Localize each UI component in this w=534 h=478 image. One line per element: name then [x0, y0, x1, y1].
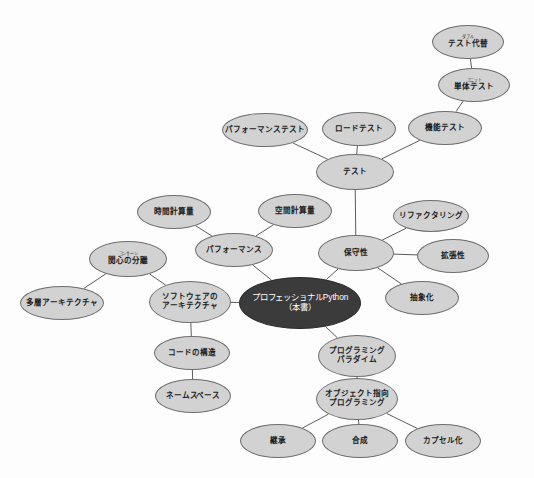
edge-soc-layered	[84, 274, 106, 289]
node-paradigm[interactable]: プログラミングパラダイム	[318, 335, 396, 377]
node-root-label-line2: （本書）	[284, 303, 316, 313]
node-perf_test[interactable]: パフォーマンステスト	[222, 113, 308, 147]
node-unit_test-label: 単体テスト	[454, 83, 494, 92]
mind-map-canvas: プロフェッショナルPython（本書）テストパフォーマンステストロードテスト機能…	[0, 0, 534, 478]
node-perf_test-label: パフォーマンステスト	[225, 126, 304, 135]
node-load_test-label: ロードテスト	[335, 125, 382, 134]
node-space_cx-label: 空間計算量	[275, 207, 315, 216]
edge-time_cx-performance	[196, 226, 212, 236]
node-soc[interactable]: コンサーン関心の分離	[89, 241, 167, 277]
node-unit_test-ruby: ユニット	[467, 78, 482, 82]
edge-oop-encapsulate	[387, 413, 418, 428]
node-code_struct[interactable]: コードの構造	[154, 336, 230, 370]
node-oop-label-line2: プログラミング	[329, 399, 384, 408]
node-func_test[interactable]: 機能テスト	[408, 111, 482, 145]
node-sw_arch-label-line2: アーキテクチャ	[162, 302, 217, 311]
node-composition-label: 合成	[352, 437, 368, 446]
node-test_double-ruby: ダブル	[462, 35, 473, 39]
edge-root-paradigm	[325, 327, 337, 338]
node-performance-label: パフォーマンス	[206, 246, 261, 255]
node-extensible-label: 拡張性	[441, 252, 465, 261]
node-maintain-label: 保守性	[344, 249, 368, 258]
node-inherit[interactable]: 継承	[240, 424, 316, 458]
node-layered[interactable]: 多層アーキテクチャ	[20, 286, 104, 320]
node-test_double[interactable]: ダブルテスト代替	[432, 25, 504, 59]
edge-extensible-maintain	[394, 254, 417, 255]
node-encapsulate-label: カプセル化	[423, 437, 463, 446]
edge-abstraction-maintain	[378, 268, 402, 284]
node-soc-ruby: コンサーン	[119, 252, 137, 256]
edge-refactor-maintain	[382, 228, 406, 240]
node-soc-label: 関心の分離	[108, 257, 148, 266]
edge-sw_arch-soc	[150, 274, 166, 285]
node-performance[interactable]: パフォーマンス	[195, 233, 273, 267]
node-sw_arch[interactable]: ソフトウェアのアーキテクチャ	[149, 281, 231, 323]
edge-load_test-test	[357, 146, 358, 154]
edge-space_cx-performance	[256, 225, 273, 236]
edge-unit_test-func_test	[456, 101, 463, 112]
node-load_test[interactable]: ロードテスト	[322, 112, 396, 146]
node-test_double-label: テスト代替	[448, 40, 488, 49]
node-encapsulate[interactable]: カプセル化	[405, 424, 481, 458]
node-layered-label: 多層アーキテクチャ	[26, 299, 97, 308]
node-func_test-label: 機能テスト	[425, 124, 465, 133]
node-test[interactable]: テスト	[316, 154, 394, 190]
edge-test_double-unit_test	[470, 59, 471, 68]
edge-oop-inherit	[302, 414, 328, 428]
node-unit_test[interactable]: ユニット単体テスト	[438, 68, 510, 102]
edge-maintain-root	[326, 269, 338, 280]
node-space_cx[interactable]: 空間計算量	[258, 194, 332, 228]
node-refactor[interactable]: リファクタリング	[393, 200, 469, 232]
edge-func_test-test	[382, 140, 420, 159]
node-namespace-label: ネームスペース	[166, 392, 220, 401]
node-abstraction-label: 抽象化	[410, 294, 434, 303]
node-test-label: テスト	[343, 168, 367, 177]
node-extensible[interactable]: 拡張性	[417, 239, 489, 273]
node-namespace[interactable]: ネームスペース	[155, 379, 231, 413]
node-time_cx[interactable]: 時間計算量	[137, 195, 211, 229]
edge-test-maintain	[355, 190, 356, 235]
node-abstraction[interactable]: 抽象化	[385, 281, 459, 315]
node-code_struct-label: コードの構造	[168, 349, 215, 358]
node-maintain[interactable]: 保守性	[318, 235, 394, 271]
node-inherit-label: 継承	[270, 437, 286, 446]
edge-sw_arch-code_struct	[191, 323, 192, 336]
node-time_cx-label: 時間計算量	[154, 208, 194, 217]
node-paradigm-label-line2: パラダイム	[337, 356, 377, 365]
node-composition[interactable]: 合成	[322, 424, 398, 458]
node-root[interactable]: プロフェッショナルPython（本書）	[239, 277, 361, 329]
edge-performance-root	[253, 265, 272, 280]
node-oop[interactable]: オブジェクト指向プログラミング	[316, 378, 398, 420]
node-refactor-label: リファクタリング	[399, 212, 462, 221]
edge-perf_test-test	[293, 143, 328, 159]
